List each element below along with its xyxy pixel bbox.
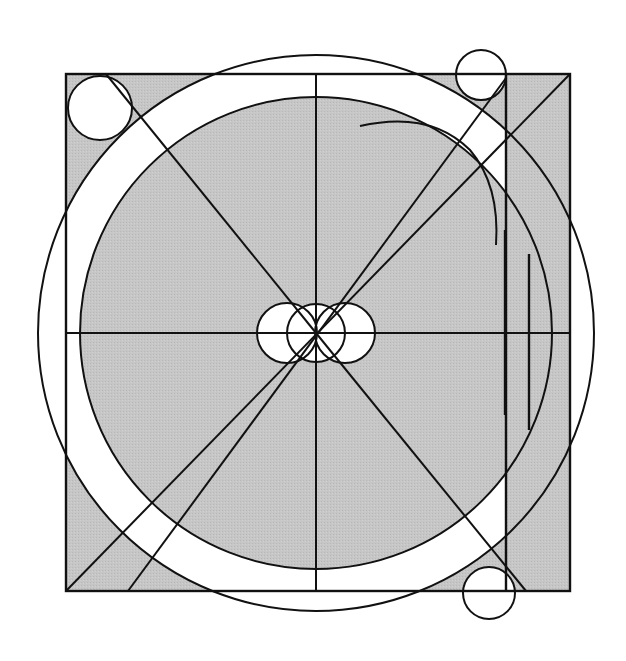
geometric-construction-diagram (0, 0, 626, 661)
